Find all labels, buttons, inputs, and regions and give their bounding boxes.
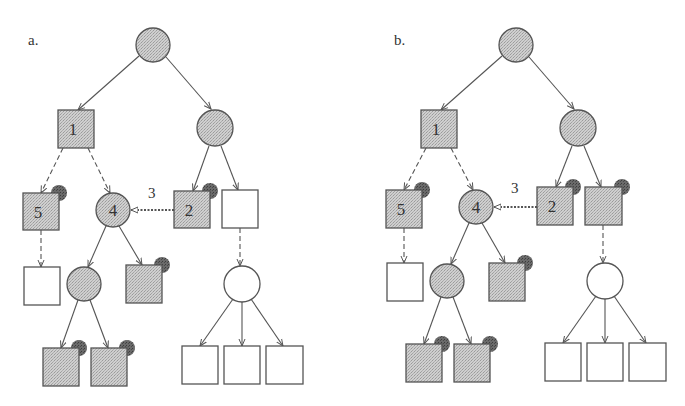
- edge-arrow: [78, 56, 139, 110]
- node-square-w5c: [24, 267, 60, 305]
- panel-label-b: b.: [394, 32, 405, 49]
- node-square-l2: [454, 344, 490, 382]
- edge-arrow: [61, 300, 78, 348]
- node-label: 5: [397, 200, 406, 219]
- panel-label-a: a.: [28, 32, 38, 49]
- edge-arrow: [482, 223, 505, 263]
- node-square-wl3: [629, 343, 666, 381]
- tree-diagram-svg: 15423 15423: [0, 0, 685, 406]
- edge-arrow: [166, 57, 211, 109]
- edge-arrow: [200, 299, 233, 346]
- dashed-edge-arrow: [88, 148, 110, 193]
- edge-arrow: [584, 146, 601, 187]
- node-square-l2: [91, 348, 127, 386]
- node-circle-c4a: [430, 264, 464, 298]
- node-square-w5c: [387, 263, 423, 301]
- node-square-w1: [585, 187, 622, 225]
- node-square-wl3: [266, 346, 303, 384]
- node-square-l1: [43, 348, 79, 386]
- edge-arrow: [251, 299, 283, 346]
- edge-arrow: [221, 146, 238, 190]
- edge-arrow: [88, 226, 106, 267]
- node-square-s4b: [489, 263, 525, 301]
- dashed-edge-arrow: [451, 148, 473, 190]
- edge-arrow: [563, 296, 596, 343]
- node-label: 1: [69, 120, 78, 139]
- edge-arrow: [451, 223, 469, 264]
- panel-b: 15423: [386, 28, 666, 382]
- node-circle-root: [499, 28, 533, 62]
- node-label: 2: [185, 201, 194, 220]
- node-square-wl1: [182, 346, 218, 384]
- node-label: 4: [109, 201, 118, 220]
- node-label: 2: [548, 197, 557, 216]
- edge-arrow: [614, 296, 646, 343]
- node-square-s4b: [126, 265, 162, 303]
- node-circle-wc: [224, 266, 260, 302]
- edge-arrow: [529, 57, 574, 109]
- edge-arrow: [441, 56, 502, 110]
- node-square-l1: [406, 344, 442, 382]
- node-circle-root: [136, 28, 170, 62]
- node-square-wl2: [587, 343, 623, 381]
- node-circle-wc: [587, 263, 623, 299]
- node-square-wl1: [545, 343, 581, 381]
- link-annotation: 3: [511, 180, 519, 196]
- panel-a: 15423: [23, 28, 303, 386]
- node-square-wl2: [224, 346, 260, 384]
- node-circle-c4a: [67, 267, 101, 301]
- node-label: 4: [472, 198, 481, 217]
- link-annotation: 3: [148, 185, 156, 201]
- diagram-canvas: a. b. 15423 15423: [0, 0, 685, 406]
- edge-arrow: [453, 297, 471, 344]
- edge-arrow: [90, 300, 108, 348]
- edge-arrow: [119, 226, 142, 265]
- node-circle-rc: [560, 110, 596, 146]
- node-label: 1: [432, 120, 441, 139]
- node-circle-rc: [197, 110, 233, 146]
- node-label: 5: [34, 203, 43, 222]
- node-square-w1: [222, 190, 258, 228]
